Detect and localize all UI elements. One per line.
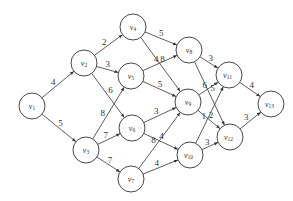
- edge-v11-v13: 4: [240, 80, 261, 97]
- edge-arrow: [98, 134, 121, 145]
- node-v13: v13: [258, 91, 284, 117]
- edge-v4-v8: 5: [145, 28, 177, 45]
- node-v12: v12: [217, 124, 243, 150]
- edge-weight-label: 4: [154, 54, 159, 64]
- node-v10: v10: [177, 142, 203, 168]
- edge-v1-v2: 4: [42, 71, 74, 97]
- edge-v3-v6: 7: [98, 130, 121, 144]
- edge-v6-v9: 3: [144, 106, 176, 122]
- edge-weight-label: 3: [105, 59, 110, 69]
- edge-weight-label: 3: [209, 53, 214, 63]
- edge-v2-v5: 3: [97, 59, 119, 72]
- edge-weight-label: 8: [100, 108, 105, 118]
- edge-v8-v11: 3: [200, 53, 218, 68]
- node-v3: v3: [73, 137, 99, 163]
- edge-weight-label: 1: [201, 111, 206, 121]
- node-v9: v9: [175, 89, 201, 115]
- nodes-layer: v1v2v3v4v5v6v7v8v9v10v11v12v13: [19, 14, 284, 192]
- node-v7: v7: [118, 166, 144, 192]
- edge-arrow: [143, 160, 178, 174]
- edge-arrow: [94, 35, 122, 56]
- node-v4: v4: [120, 14, 146, 40]
- node-v11: v11: [216, 62, 242, 88]
- edge-v5-v9: 5: [143, 79, 176, 97]
- edge-arrow: [139, 112, 181, 168]
- edge-arrow: [144, 107, 176, 122]
- edge-v3-v7: 7: [97, 155, 120, 172]
- edge-weight-label: 8: [151, 135, 156, 145]
- edge-arrow: [42, 71, 74, 97]
- edge-weight-label: 6: [203, 80, 208, 90]
- node-v1: v1: [19, 93, 45, 119]
- edge-weight-label: 4: [155, 158, 160, 168]
- edge-v7-v9: 8: [139, 112, 181, 168]
- edge-v10-v12: 3: [202, 137, 218, 150]
- edge-weight-label: 6: [108, 85, 113, 95]
- edge-weight-label: 7: [108, 155, 113, 165]
- edge-weight-label: 3: [244, 112, 249, 122]
- edge-v1-v3: 5: [42, 114, 76, 142]
- node-v8: v8: [176, 37, 202, 63]
- edge-weight-label: 4: [51, 77, 56, 87]
- edge-v9-v11: 6: [199, 80, 218, 95]
- edge-v6-v10: 4: [144, 131, 178, 149]
- directed-graph: 452368775845348435621343 v1v2v3v4v5v6v7v…: [0, 0, 293, 201]
- edge-v12-v13: 3: [240, 112, 261, 129]
- edge-v7-v10: 4: [143, 158, 178, 174]
- edge-weight-label: 5: [159, 28, 164, 38]
- edge-weight-label: 2: [102, 37, 107, 47]
- edge-v2-v4: 2: [94, 35, 122, 56]
- node-v2: v2: [71, 50, 97, 76]
- node-v5: v5: [118, 63, 144, 89]
- edge-weight-label: 3: [154, 106, 159, 116]
- edge-weight-label: 5: [158, 79, 163, 89]
- edge-weight-label: 4: [250, 80, 255, 90]
- edge-weight-label: 5: [58, 118, 63, 128]
- edge-weight-label: 3: [205, 137, 210, 147]
- node-v6: v6: [119, 115, 145, 141]
- edge-weight-label: 7: [103, 130, 108, 140]
